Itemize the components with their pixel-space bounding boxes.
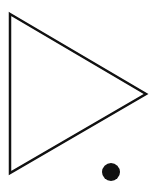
diagram-canvas — [0, 0, 158, 187]
black-dot — [102, 163, 120, 181]
diagram-svg — [0, 0, 158, 187]
right-pointing-triangle — [10, 14, 146, 173]
